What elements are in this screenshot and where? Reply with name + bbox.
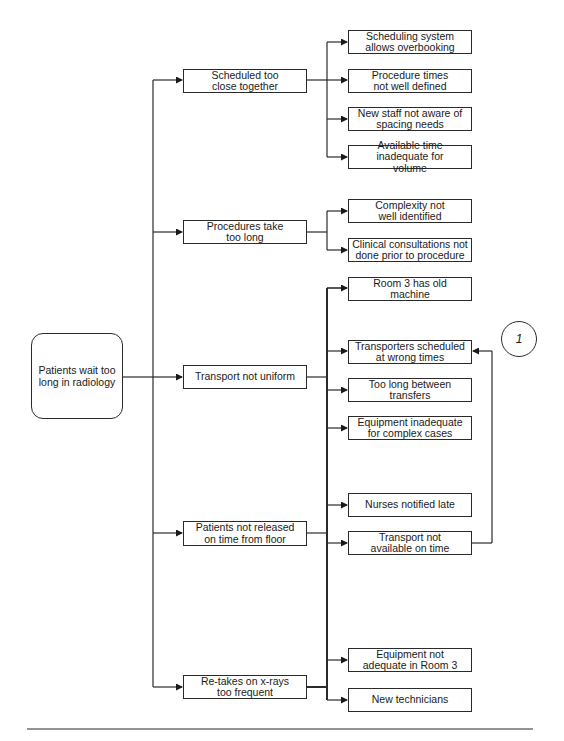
cause-label: Patients not released on time from floor <box>193 522 298 545</box>
subcause-label: Too long between transfers <box>365 379 455 402</box>
subcause-box: Equipment inadequate for complex cases <box>348 416 472 440</box>
cause-label: Scheduled too close together <box>205 70 285 93</box>
subcause-label: Transport not available on time <box>365 532 455 555</box>
subcause-box: New technicians <box>348 688 472 712</box>
subcause-box: Scheduling system allows overbooking <box>348 30 472 54</box>
subcause-label: Room 3 has old machine <box>352 278 468 301</box>
subcause-box: Available time inadequate for volume <box>348 145 472 169</box>
subcause-box: New staff not aware of spacing needs <box>348 107 472 131</box>
subcause-label: Transporters scheduled at wrong times <box>353 341 468 364</box>
subcause-label: Clinical consultations not done prior to… <box>352 239 468 262</box>
subcause-label: Nurses notified late <box>365 499 455 511</box>
cause-box-scheduled-too-close: Scheduled too close together <box>183 69 307 93</box>
subcause-label: Available time inadequate for volume <box>365 140 455 175</box>
reference-marker-label: 1 <box>516 332 523 346</box>
cause-box-procedures-take-too-long: Procedures take too long <box>183 220 307 244</box>
cause-box-transport-not-uniform: Transport not uniform <box>183 365 307 389</box>
subcause-box: Transport not available on time <box>348 531 472 555</box>
subcause-box: Transporters scheduled at wrong times <box>348 340 472 364</box>
cause-label: Procedures take too long <box>205 221 285 244</box>
cause-label: Re-takes on x-rays too frequent <box>195 676 295 699</box>
subcause-box: Equipment not adequate in Room 3 <box>348 648 472 672</box>
subcause-box: Procedure times not well defined <box>348 69 472 93</box>
cause-box-patients-not-released: Patients not released on time from floor <box>183 521 307 546</box>
subcause-label: New staff not aware of spacing needs <box>355 108 465 131</box>
subcause-box: Complexity not well identified <box>348 199 472 223</box>
tree-diagram: Patients wait too long in radiology Sche… <box>0 0 564 741</box>
root-problem-label: Patients wait too long in radiology <box>35 364 119 388</box>
subcause-box: Too long between transfers <box>348 378 472 402</box>
subcause-box: Clinical consultations not done prior to… <box>348 238 472 262</box>
subcause-label: Complexity not well identified <box>370 200 450 223</box>
root-problem-box: Patients wait too long in radiology <box>31 333 123 419</box>
subcause-label: New technicians <box>372 694 448 706</box>
subcause-box: Nurses notified late <box>348 493 472 517</box>
subcause-box: Room 3 has old machine <box>348 277 472 301</box>
cause-box-retakes-too-frequent: Re-takes on x-rays too frequent <box>183 675 307 699</box>
subcause-label: Procedure times not well defined <box>365 70 455 93</box>
subcause-label: Equipment not adequate in Room 3 <box>360 649 460 672</box>
subcause-label: Scheduling system allows overbooking <box>360 31 460 54</box>
cause-label: Transport not uniform <box>195 371 295 383</box>
reference-marker-circle: 1 <box>501 321 537 357</box>
subcause-label: Equipment inadequate for complex cases <box>354 417 466 440</box>
